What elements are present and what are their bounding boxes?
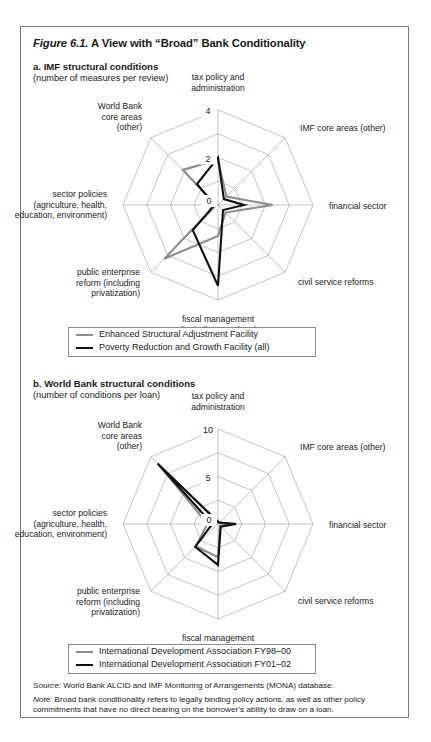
axis-label: financial sector: [329, 201, 386, 211]
legend-label-esaf: Enhanced Structural Adjustment Facility: [99, 328, 258, 341]
note-label: Note:: [33, 695, 52, 704]
svg-text:(agriculture, health,: (agriculture, health,: [33, 519, 107, 529]
figure-title: Figure 6.1. A View with “Broad” Bank Con…: [33, 37, 306, 49]
axis-label: financial sector: [329, 520, 386, 530]
legend-label-ida-fy01: International Development Association FY…: [99, 658, 291, 671]
svg-text:privatization): privatization): [91, 607, 140, 617]
svg-text:reform (including: reform (including: [76, 597, 140, 607]
panel-b-title: b. World Bank structural conditions: [33, 378, 195, 389]
radial-tick-label: 0: [206, 196, 211, 206]
axis-label: World Bankcore areas(other): [98, 420, 143, 451]
svg-text:privatization): privatization): [91, 288, 140, 298]
axis-label: civil service reforms: [298, 277, 373, 287]
legend-swatch-prgf: [76, 347, 93, 349]
svg-text:fiscal management: fiscal management: [182, 633, 255, 643]
radar-series: [164, 160, 272, 259]
axis-label: World Bankcore areas(other): [98, 101, 143, 132]
legend-item: International Development Association FY…: [69, 645, 315, 658]
legend-item: Poverty Reduction and Growth Facility (a…: [69, 341, 315, 354]
radial-tick-label: 2: [205, 154, 210, 164]
svg-text:administration: administration: [191, 402, 245, 412]
radial-tick-label: 4: [205, 106, 210, 116]
panel-b-radar: 0510tax policy andadministrationIMF core…: [21, 402, 410, 642]
explanatory-note: Note: Broad bank conditionality refers t…: [33, 695, 401, 716]
svg-text:(other): (other): [117, 441, 142, 451]
source-note: Source: World Bank ALCID and IMF Monitor…: [33, 681, 401, 692]
svg-text:sector policies: sector policies: [53, 508, 107, 518]
panel-a-chart: 024tax policy andadministrationIMF core …: [21, 85, 410, 325]
svg-text:administration: administration: [191, 83, 245, 93]
figure-title-rest: A View with “Broad” Bank Conditionality: [88, 37, 305, 49]
legend-item: International Development Association FY…: [69, 658, 315, 671]
svg-text:public enterprise: public enterprise: [77, 586, 140, 596]
svg-text:sector policies: sector policies: [53, 189, 107, 199]
panel-a-radar: 024tax policy andadministrationIMF core …: [21, 85, 410, 325]
radial-tick-label: 10: [203, 425, 213, 435]
svg-text:public enterprise: public enterprise: [77, 267, 140, 277]
svg-text:core areas: core areas: [101, 112, 142, 122]
panel-b-chart: 0510tax policy andadministrationIMF core…: [21, 402, 410, 642]
radial-tick-label: 5: [205, 473, 210, 483]
svg-text:education, environment): education, environment): [15, 529, 107, 539]
svg-text:tax policy and: tax policy and: [192, 72, 245, 82]
figure-frame: Figure 6.1. A View with “Broad” Bank Con…: [20, 26, 409, 718]
source-label: Source:: [33, 681, 61, 690]
svg-text:reform (including: reform (including: [76, 278, 140, 288]
svg-text:IMF core areas (other): IMF core areas (other): [300, 123, 386, 133]
legend-item: Enhanced Structural Adjustment Facility: [69, 328, 315, 341]
axis-label: tax policy andadministration: [191, 391, 245, 412]
legend-label-ida-fy98: International Development Association FY…: [99, 645, 291, 658]
figure-notes: Source: World Bank ALCID and IMF Monitor…: [33, 681, 401, 719]
axis-label: sector policies(agriculture, health,educ…: [15, 189, 107, 220]
panel-a-subtitle: (number of measures per review): [33, 73, 168, 83]
axis-label: tax policy andadministration: [191, 72, 245, 93]
svg-text:financial sector: financial sector: [329, 520, 386, 530]
axis-label: IMF core areas (other): [300, 123, 386, 133]
svg-text:World Bank: World Bank: [98, 101, 143, 111]
legend-swatch-esaf: [76, 334, 93, 336]
note-text: Broad bank conditionality refers to lega…: [33, 695, 365, 715]
source-text: World Bank ALCID and IMF Monitoring of A…: [61, 681, 334, 690]
svg-text:fiscal management: fiscal management: [182, 314, 255, 324]
svg-text:World Bank: World Bank: [98, 420, 143, 430]
svg-text:education, environment): education, environment): [15, 210, 107, 220]
axis-label: public enterprisereform (includingprivat…: [76, 586, 140, 617]
radar-series: [193, 158, 244, 286]
panel-a-legend: Enhanced Structural Adjustment Facility …: [68, 327, 316, 357]
svg-text:civil service reforms: civil service reforms: [298, 277, 373, 287]
axis-label: sector policies(agriculture, health,educ…: [15, 508, 107, 539]
panel-a-title: a. IMF structural conditions: [33, 61, 158, 72]
legend-swatch-ida-fy98: [76, 651, 93, 653]
svg-text:civil service reforms: civil service reforms: [298, 596, 373, 606]
panel-b-subtitle: (number of conditions per loan): [33, 390, 160, 400]
svg-text:(agriculture, health,: (agriculture, health,: [33, 200, 107, 210]
radial-tick-label: 0: [206, 515, 211, 525]
figure-number: Figure 6.1.: [33, 37, 88, 49]
svg-text:financial sector: financial sector: [329, 201, 386, 211]
axis-label: public enterprisereform (includingprivat…: [76, 267, 140, 298]
svg-text:IMF core areas (other): IMF core areas (other): [300, 442, 386, 452]
legend-swatch-ida-fy01: [76, 664, 93, 666]
legend-label-prgf: Poverty Reduction and Growth Facility (a…: [99, 341, 270, 354]
svg-text:core areas: core areas: [101, 431, 142, 441]
svg-text:(other): (other): [117, 122, 142, 132]
panel-b-legend: International Development Association FY…: [68, 644, 316, 674]
axis-label: civil service reforms: [298, 596, 373, 606]
svg-text:tax policy and: tax policy and: [192, 391, 245, 401]
axis-label: IMF core areas (other): [300, 442, 386, 452]
